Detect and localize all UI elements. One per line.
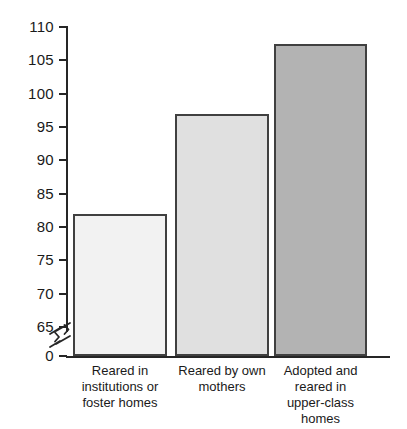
y-tick-label-110: 110 xyxy=(14,19,54,34)
y-tick-label-105: 105 xyxy=(14,52,54,67)
bar-2 xyxy=(175,114,269,356)
y-tick-mark-90 xyxy=(59,159,67,161)
bar-1 xyxy=(73,214,167,356)
x-axis-label-line: Adopted and xyxy=(258,363,383,379)
y-tick-mark-75 xyxy=(59,259,67,261)
y-tick-mark-85 xyxy=(59,193,67,195)
x-axis-line xyxy=(66,356,390,358)
x-axis-label-3: Adopted andreared inupper-classhomes xyxy=(258,363,383,427)
y-tick-mark-95 xyxy=(59,126,67,128)
x-axis-label-line: reared in xyxy=(258,379,383,395)
y-tick-label-75: 75 xyxy=(14,252,54,267)
y-tick-mark-80 xyxy=(59,226,67,228)
y-tick-label-95: 95 xyxy=(14,119,54,134)
y-tick-label-70: 70 xyxy=(14,286,54,301)
bar-3 xyxy=(274,44,367,356)
y-tick-mark-70 xyxy=(59,293,67,295)
x-axis-label-line: foster homes xyxy=(57,395,183,411)
y-tick-label-85: 85 xyxy=(14,186,54,201)
y-tick-label-80: 80 xyxy=(14,219,54,234)
plot-area: 65707580859095100105110 0 Reared ininsti… xyxy=(0,0,407,429)
bar-chart: 65707580859095100105110 0 Reared ininsti… xyxy=(0,0,407,429)
y-tick-label-90: 90 xyxy=(14,152,54,167)
x-axis-label-line: upper-class xyxy=(258,395,383,411)
y-axis-line xyxy=(66,26,68,332)
x-axis-label-line: homes xyxy=(258,411,383,427)
y-tick-mark-110 xyxy=(59,26,67,28)
y-tick-label-100: 100 xyxy=(14,86,54,101)
y-tick-mark-zero xyxy=(59,355,67,357)
y-tick-mark-105 xyxy=(59,59,67,61)
y-tick-mark-100 xyxy=(59,93,67,95)
